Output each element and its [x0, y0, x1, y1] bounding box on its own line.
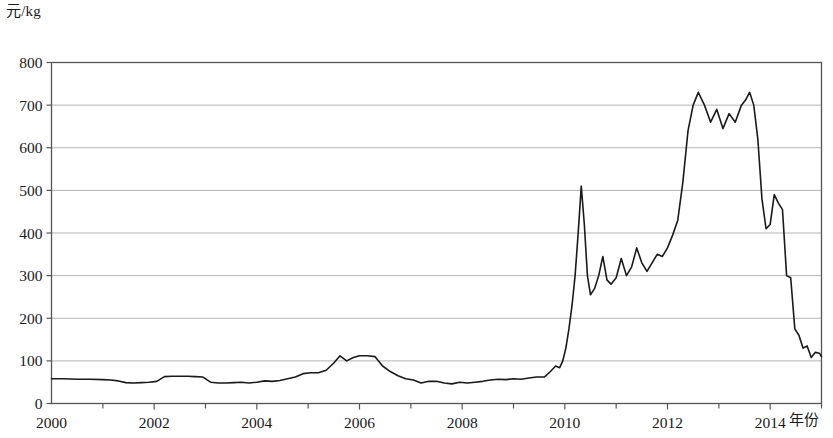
x-tick-label: 2010	[549, 414, 580, 431]
x-tick-label: 2008	[447, 414, 478, 431]
y-tick-label: 300	[19, 267, 43, 284]
plot-area: 0100200300400500600700800 20002002200420…	[0, 0, 833, 438]
price-line-chart: 元/kg 年份 0100200300400500600700800 200020…	[0, 0, 833, 438]
x-tick-label: 2014	[755, 414, 786, 431]
x-tick-label: 2006	[344, 414, 375, 431]
x-tick-label: 2004	[241, 414, 272, 431]
gridlines	[52, 105, 822, 361]
y-tick-label: 400	[19, 225, 43, 242]
x-tick-label: 2002	[139, 414, 170, 431]
y-tick-label: 500	[19, 182, 43, 199]
x-axis-ticks: 20002002200420062008201020122014	[36, 404, 822, 431]
x-tick-label: 2000	[36, 414, 67, 431]
y-tick-label: 600	[19, 139, 43, 156]
y-tick-label: 100	[19, 352, 43, 369]
y-axis-ticks: 0100200300400500600700800	[19, 54, 51, 412]
x-tick-label: 2012	[652, 414, 683, 431]
y-tick-label: 200	[19, 310, 43, 327]
series-line-价格	[52, 92, 822, 384]
y-tick-label: 700	[19, 97, 43, 114]
y-tick-label: 0	[35, 395, 43, 412]
y-tick-label: 800	[19, 54, 43, 71]
data-series	[52, 92, 822, 384]
